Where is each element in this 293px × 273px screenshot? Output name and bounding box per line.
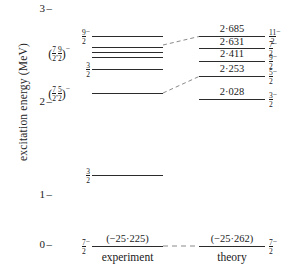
fraction-denominator: 2 (58, 55, 62, 63)
theory-ground-state-value: (−25·262) (199, 233, 265, 244)
theory-energy-value-3: 2·411 (199, 48, 265, 59)
theory-spin-label-5: 3 2 − (269, 92, 277, 109)
parity-minus-sign: − (273, 91, 277, 98)
fraction: 3 2 (86, 62, 90, 79)
theory-energy-value-2: 2·631 (199, 36, 265, 47)
fraction-numerator: 5 (58, 86, 62, 94)
y-tick-0-value: 0 (40, 238, 46, 250)
experiment-spin-group-upper: ( 7 2 , 9 2 )− (20, 46, 70, 63)
fraction-denominator: 2 (269, 78, 273, 86)
level-scheme-figure: excitation energy (MeV) 3– 2– 1– 0– 9 2 … (0, 0, 293, 273)
experiment-level-5 (92, 69, 163, 70)
fraction: 9 2 (58, 46, 62, 63)
fraction-numerator: 3 (86, 62, 90, 70)
y-tick-1-value: 1 (40, 188, 46, 200)
parity-minus-sign: − (66, 45, 70, 52)
y-tick-3: 3– (26, 2, 52, 14)
y-tick-0: 0– (26, 238, 52, 250)
fraction-numerator: 7 (52, 86, 56, 94)
y-tick-3-value: 3 (40, 2, 46, 14)
experiment-level-2 (92, 47, 163, 48)
fraction-numerator: 11 (269, 29, 276, 37)
parity-minus-sign: − (273, 238, 277, 245)
connector-upper (163, 37, 199, 46)
fraction-denominator: 2 (52, 55, 56, 63)
theory-level-5 (199, 99, 265, 100)
fraction-denominator: 2 (58, 95, 62, 103)
parity-minus-sign: − (276, 28, 280, 35)
parity-minus-sign: − (273, 53, 277, 60)
parity-minus-sign: − (86, 28, 90, 35)
experiment-spin-label-1p3: 3 2 (70, 168, 90, 185)
fraction-numerator: 7 (52, 46, 56, 54)
theory-energy-value-1: 2·685 (199, 23, 265, 34)
theory-level-ground (199, 246, 265, 247)
theory-spin-label-4: 5 2 − (269, 69, 277, 86)
experiment-level-7 (92, 175, 163, 176)
connector-lower (163, 77, 199, 94)
parity-minus-sign: − (273, 40, 277, 47)
experiment-ground-state-value: (−25·225) (92, 233, 163, 244)
fraction-denominator: 2 (52, 95, 56, 103)
fraction: 5 2 (58, 86, 62, 103)
y-tick-1-dash: – (47, 188, 53, 200)
theory-energy-value-4: 2·253 (199, 63, 265, 74)
parity-minus-sign: − (273, 68, 277, 75)
experiment-level-3 (92, 52, 163, 53)
fraction: 7 2 (52, 46, 56, 63)
experiment-level-4 (92, 57, 163, 58)
experiment-level-1 (92, 36, 163, 37)
fraction-denominator: 2 (269, 101, 273, 109)
fraction: 7 2 (52, 86, 56, 103)
fraction-denominator: 2 (86, 71, 90, 79)
theory-level-3 (199, 61, 265, 62)
experiment-spin-label-1: 9 2 − (70, 29, 90, 46)
parity-minus-sign: − (66, 85, 70, 92)
fraction-numerator: 9 (58, 46, 62, 54)
experiment-level-ground (92, 246, 163, 247)
experiment-level-6 (92, 93, 163, 94)
parity-minus-sign: − (86, 238, 90, 245)
y-tick-1: 1– (26, 188, 52, 200)
experiment-spin-group-lower: ( 7 2 , 5 2 )− (20, 86, 70, 103)
experiment-spin-label-3half: 3 2 (70, 62, 90, 79)
fraction-denominator: 2 (86, 177, 90, 185)
fraction: 3 2 (86, 168, 90, 185)
theory-level-4 (199, 76, 265, 77)
theory-caption: theory (192, 251, 272, 263)
experiment-caption: experiment (82, 251, 173, 263)
fraction-denominator: 2 (82, 38, 86, 46)
y-tick-3-dash: – (47, 2, 53, 14)
fraction-numerator: 3 (86, 168, 90, 176)
y-tick-0-dash: – (47, 238, 53, 250)
theory-energy-value-5: 2·028 (199, 86, 265, 97)
